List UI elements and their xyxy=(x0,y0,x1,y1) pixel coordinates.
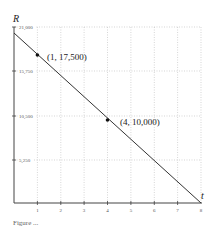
x-tick-4: 4 xyxy=(106,208,109,213)
y-tick-5250: 5,250 xyxy=(19,158,31,164)
data-point-1 xyxy=(36,53,40,57)
chart: 21,000 15,750 10,500 5,250 1 2 3 4 5 6 7… xyxy=(0,0,209,226)
axes xyxy=(14,27,202,203)
x-tick-labels: 1 2 3 4 5 6 7 8 xyxy=(36,208,203,213)
y-tick-10500: 10,500 xyxy=(19,114,33,120)
x-tick-6: 6 xyxy=(153,208,156,213)
x-tick-8: 8 xyxy=(200,208,203,213)
x-tick-1: 1 xyxy=(36,208,39,213)
figure-caption: Figure ... xyxy=(13,219,38,226)
x-tick-5: 5 xyxy=(130,208,133,213)
x-tick-7: 7 xyxy=(176,208,179,213)
point-label-1: (1, 17,500) xyxy=(47,52,87,62)
y-axis-label: R xyxy=(12,13,19,24)
data-point-2 xyxy=(106,118,110,122)
y-tick-21000: 21,000 xyxy=(19,25,33,31)
grid xyxy=(14,27,201,203)
x-tick-3: 3 xyxy=(83,208,86,213)
y-tick-15750: 15,750 xyxy=(19,69,33,75)
x-axis-label: t xyxy=(201,190,204,201)
point-label-2: (4, 10,000) xyxy=(120,117,160,127)
x-tick-2: 2 xyxy=(60,208,63,213)
